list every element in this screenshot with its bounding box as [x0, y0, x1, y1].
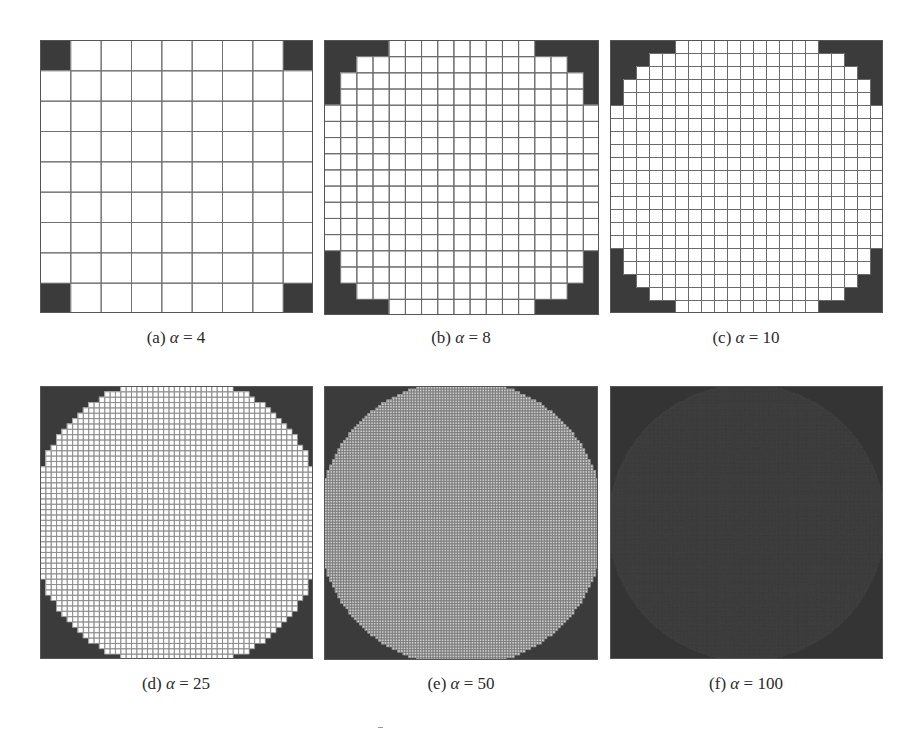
grid-mask-canvas	[610, 386, 883, 659]
caption-c: (c) α = 10	[686, 328, 806, 348]
panel-a-grid	[40, 40, 313, 313]
grid-mask-canvas	[40, 386, 313, 659]
alpha-symbol: α	[166, 674, 175, 693]
caption-b: (b) α = 8	[401, 328, 521, 348]
scan-artifact	[378, 727, 383, 728]
caption-label: (c)	[712, 328, 731, 347]
alpha-symbol: α	[451, 674, 460, 693]
equals-sign: =	[749, 328, 759, 347]
equals-sign: =	[744, 674, 754, 693]
alpha-value: 50	[478, 674, 495, 693]
caption-e: (e) α = 50	[401, 674, 521, 694]
grid-mask-canvas	[610, 40, 883, 313]
grid-mask-canvas	[324, 386, 598, 660]
panel-c-grid	[610, 40, 883, 313]
caption-label: (d)	[142, 674, 162, 693]
panel-d-grid	[40, 386, 313, 659]
alpha-symbol: α	[455, 328, 464, 347]
grid-mask-canvas	[40, 40, 313, 313]
caption-label: (b)	[431, 328, 451, 347]
alpha-value: 4	[197, 328, 206, 347]
alpha-value: 100	[757, 674, 783, 693]
caption-a: (a) α = 4	[116, 328, 236, 348]
panel-e-grid	[324, 386, 598, 660]
caption-label: (f)	[709, 674, 726, 693]
caption-f: (f) α = 100	[686, 674, 806, 694]
caption-d: (d) α = 25	[116, 674, 236, 694]
grid-mask-canvas	[324, 40, 599, 315]
alpha-value: 10	[763, 328, 780, 347]
alpha-symbol: α	[730, 674, 739, 693]
alpha-value: 25	[193, 674, 210, 693]
equals-sign: =	[183, 328, 193, 347]
panel-f-grid	[610, 386, 883, 659]
panel-b-grid	[324, 40, 599, 315]
alpha-symbol: α	[736, 328, 745, 347]
caption-label: (e)	[427, 674, 446, 693]
equals-sign: =	[179, 674, 189, 693]
caption-label: (a)	[147, 328, 166, 347]
equals-sign: =	[468, 328, 478, 347]
equals-sign: =	[464, 674, 474, 693]
alpha-symbol: α	[170, 328, 179, 347]
alpha-value: 8	[482, 328, 491, 347]
